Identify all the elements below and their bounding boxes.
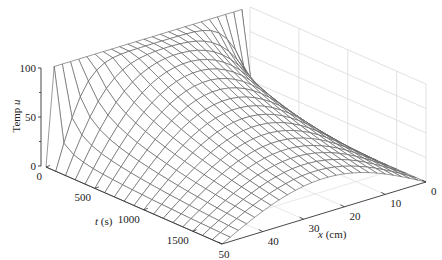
surface-plot: 05010005001000150001020304050 Temp u t (… [0, 0, 442, 260]
z-tick-label: 100 [20, 62, 37, 74]
x-tick-label: 0 [431, 185, 437, 197]
z-axis-label: Temp u [10, 99, 22, 133]
t-tick-label: 1000 [118, 213, 141, 225]
t-tick-label: 1500 [167, 234, 190, 246]
t-tick-label: 500 [74, 191, 91, 203]
x-tick-label: 20 [349, 210, 361, 222]
mesh-surface [46, 10, 426, 245]
x-tick-label: 50 [219, 248, 231, 260]
x-tick-label: 40 [268, 235, 280, 247]
z-tick-label: 50 [25, 111, 37, 123]
x-axis-label: x (cm) [317, 228, 347, 241]
t-axis-label: t (s) [95, 215, 113, 228]
x-tick-label: 10 [390, 197, 402, 209]
t-tick-label: 0 [37, 170, 43, 182]
